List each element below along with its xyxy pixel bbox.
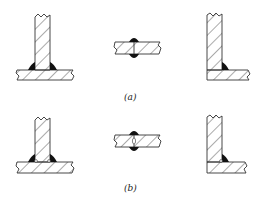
root-void	[132, 138, 135, 144]
root-void-right	[48, 160, 51, 163]
weld-bead-top	[129, 38, 139, 42]
vertical-plate	[207, 13, 222, 70]
weld-joint-diagram: (a) (b)	[0, 0, 261, 203]
row-a-label: (a)	[124, 92, 137, 102]
t-joint-b	[16, 117, 74, 173]
vertical-plate	[207, 115, 222, 162]
fillet-weld-left	[28, 154, 35, 162]
corner-joint-b	[207, 115, 247, 173]
base-plate	[207, 162, 247, 173]
butt-joint-b	[114, 131, 161, 151]
plate	[114, 135, 161, 147]
row-b-label: (b)	[124, 183, 137, 193]
row-b: (b)	[16, 115, 247, 193]
inside-fillet-weld	[222, 62, 229, 70]
base-plate	[16, 162, 74, 173]
plate	[114, 42, 161, 54]
fillet-weld-right	[50, 154, 57, 162]
weld-bead-bottom	[129, 54, 139, 58]
fillet-weld-left	[28, 62, 35, 70]
butt-joint-a	[114, 38, 161, 58]
vertical-plate	[35, 14, 50, 70]
base-plate	[207, 70, 250, 80]
base-plate	[16, 70, 74, 80]
t-joint-a	[16, 14, 74, 80]
weld-bead-bottom	[129, 147, 139, 151]
row-a: (a)	[16, 13, 250, 102]
root-void-left	[35, 160, 38, 163]
inside-fillet-weld	[222, 154, 229, 162]
fillet-weld-right	[50, 62, 57, 70]
root-void	[220, 160, 223, 163]
corner-joint-a	[207, 13, 250, 80]
vertical-plate	[35, 117, 50, 162]
weld-bead-top	[129, 131, 139, 135]
